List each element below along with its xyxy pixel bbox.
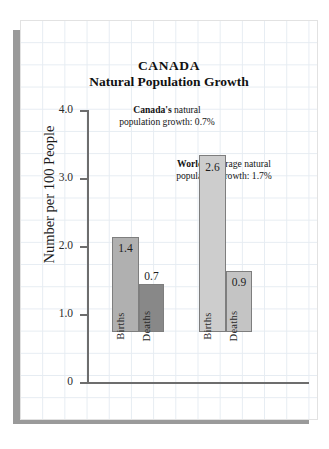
- bar-label-canada-births: Births: [115, 312, 126, 339]
- y-tick-0: [80, 382, 87, 384]
- y-tick-2: [80, 246, 87, 248]
- bar-label-world-births: Births: [202, 312, 213, 339]
- plot-area: 4.0 3.0 2.0 1.0 0 Number per 100 People …: [21, 21, 317, 419]
- annotation-canada-line2: population growth: 0.7%: [119, 116, 215, 127]
- y-axis-label: Number per 100 People: [41, 105, 58, 285]
- bar-value-canada-deaths: 0.7: [144, 270, 158, 282]
- chart-card: CANADA Natural Population Growth 4.0 3.0…: [20, 20, 318, 420]
- bar-label-world-deaths: Deaths: [228, 311, 239, 342]
- bar-value-canada-births: 1.4: [118, 242, 132, 254]
- annotation-canada-strong: Canada's: [133, 104, 171, 115]
- y-tick-label-0: 0: [31, 375, 73, 387]
- x-axis-baseline: [87, 382, 309, 384]
- y-tick-label-1: 1.0: [31, 307, 73, 319]
- bar-canada-births: 1.4 Births: [112, 237, 139, 332]
- y-tick-4: [80, 110, 87, 112]
- bar-value-world-deaths: 0.9: [232, 276, 246, 288]
- bar-world-deaths: 0.9 Deaths: [226, 271, 252, 332]
- bar-world-births: 2.6 Births: [199, 155, 226, 332]
- bar-canada-deaths: 0.7 Deaths: [139, 284, 164, 332]
- page-canvas: CANADA Natural Population Growth 4.0 3.0…: [0, 0, 329, 449]
- bar-value-world-births: 2.6: [205, 161, 219, 173]
- annotation-canada-rest: natural: [172, 104, 201, 115]
- bar-label-canada-deaths: Deaths: [141, 311, 152, 342]
- y-axis-line: [87, 110, 89, 384]
- y-tick-3: [80, 178, 87, 180]
- y-tick-1: [80, 314, 87, 316]
- annotation-canada: Canada's natural population growth: 0.7%: [97, 104, 237, 128]
